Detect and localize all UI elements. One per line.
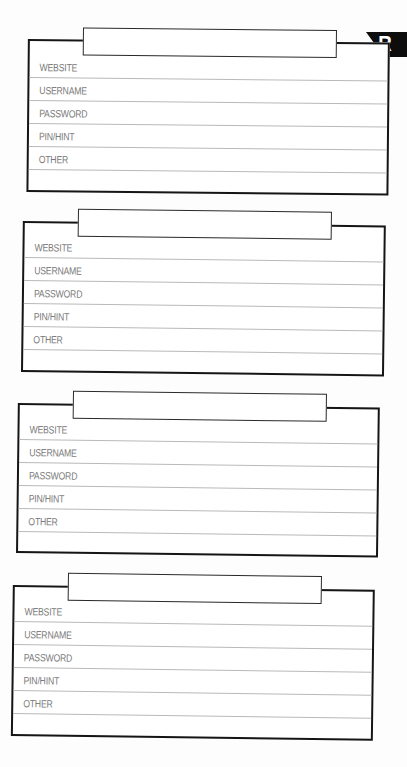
- website-field[interactable]: [100, 58, 384, 79]
- password-field[interactable]: [94, 284, 379, 305]
- field-label-pin-hint: PIN/HINT: [34, 310, 70, 322]
- field-label-website: WEBSITE: [34, 241, 72, 253]
- card-frame: WEBSITE USERNAME PASSWORD PIN/HINT OTHER: [21, 221, 386, 376]
- field-label-other: OTHER: [28, 515, 57, 527]
- username-field[interactable]: [84, 625, 368, 647]
- pin-hint-field[interactable]: [99, 127, 383, 148]
- username-field[interactable]: [89, 443, 373, 464]
- password-card-1: WEBSITE USERNAME PASSWORD PIN/HINT OTHER: [26, 27, 390, 198]
- field-label-other: OTHER: [39, 153, 68, 165]
- field-label-pin-hint: PIN/HINT: [29, 492, 65, 504]
- card-frame: WEBSITE USERNAME PASSWORD PIN/HINT OTHER: [26, 39, 389, 195]
- other-field[interactable]: [83, 694, 367, 716]
- card-frame: WEBSITE USERNAME PASSWORD PIN/HINT OTHER: [16, 403, 380, 557]
- field-label-password: PASSWORD: [29, 469, 77, 482]
- password-field[interactable]: [99, 104, 383, 125]
- card-title-tab: [78, 209, 332, 240]
- password-card-3: WEBSITE USERNAME PASSWORD PIN/HINT OTHER: [16, 390, 380, 562]
- other-field[interactable]: [93, 330, 378, 351]
- password-log-page: R WEBSITE USERNAME PASSWORD PIN/HINT: [0, 0, 407, 767]
- field-row-pin-hint: PIN/HINT: [29, 124, 387, 150]
- card-field-list: WEBSITE USERNAME PASSWORD PIN/HINT OTHER: [18, 417, 377, 536]
- card-field-list: WEBSITE USERNAME PASSWORD PIN/HINT OTHER: [29, 55, 388, 173]
- pin-hint-field[interactable]: [94, 307, 379, 328]
- field-label-website: WEBSITE: [29, 423, 67, 435]
- field-row-password: PASSWORD: [29, 101, 387, 127]
- pin-hint-field[interactable]: [89, 489, 373, 510]
- card-frame: WEBSITE USERNAME PASSWORD PIN/HINT OTHER: [11, 585, 375, 741]
- field-label-username: USERNAME: [39, 84, 87, 96]
- field-label-password: PASSWORD: [39, 107, 87, 119]
- card-title-tab: [68, 573, 322, 604]
- username-field[interactable]: [99, 81, 383, 102]
- card-field-list: WEBSITE USERNAME PASSWORD PIN/HINT OTHER: [23, 235, 383, 354]
- field-row-other: OTHER: [29, 147, 387, 173]
- field-label-username: USERNAME: [29, 446, 77, 459]
- field-label-website: WEBSITE: [24, 605, 62, 617]
- other-field[interactable]: [88, 512, 372, 533]
- website-field[interactable]: [89, 420, 373, 441]
- password-field[interactable]: [89, 466, 373, 487]
- field-row-other: OTHER: [23, 327, 382, 354]
- card-title-field[interactable]: [78, 395, 322, 418]
- field-label-pin-hint: PIN/HINT: [39, 130, 75, 142]
- field-label-website: WEBSITE: [40, 61, 78, 73]
- card-field-list: WEBSITE USERNAME PASSWORD PIN/HINT OTHER: [13, 599, 372, 719]
- card-title-tab: [83, 28, 337, 58]
- field-row-website: WEBSITE: [30, 55, 388, 81]
- field-row-other: OTHER: [13, 691, 371, 719]
- card-title-field[interactable]: [88, 32, 332, 54]
- other-field[interactable]: [99, 150, 383, 171]
- card-title-field[interactable]: [73, 577, 317, 600]
- card-title-field[interactable]: [83, 213, 327, 236]
- card-title-tab: [73, 391, 327, 422]
- field-row-username: USERNAME: [29, 78, 387, 104]
- website-field[interactable]: [94, 238, 379, 259]
- field-label-password: PASSWORD: [34, 287, 82, 300]
- username-field[interactable]: [94, 261, 379, 282]
- field-label-other: OTHER: [23, 697, 52, 709]
- field-label-pin-hint: PIN/HINT: [24, 674, 60, 686]
- password-card-2: WEBSITE USERNAME PASSWORD PIN/HINT OTHER: [21, 208, 386, 380]
- password-card-4: WEBSITE USERNAME PASSWORD PIN/HINT OTHER: [11, 572, 375, 745]
- field-row-other: OTHER: [18, 509, 376, 536]
- website-field[interactable]: [84, 602, 368, 624]
- field-label-username: USERNAME: [24, 628, 72, 641]
- field-label-username: USERNAME: [34, 264, 82, 277]
- field-label-other: OTHER: [33, 333, 62, 345]
- field-label-password: PASSWORD: [24, 651, 72, 664]
- password-field[interactable]: [84, 648, 368, 670]
- pin-hint-field[interactable]: [83, 671, 367, 693]
